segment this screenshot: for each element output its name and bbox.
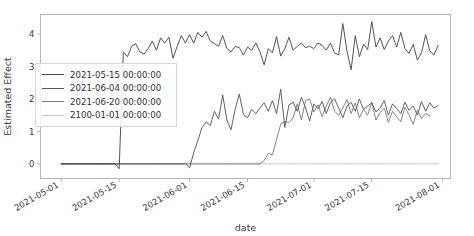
x-tick-label: 2021-05-15 xyxy=(70,180,118,213)
x-tick-label: 2021-06-15 xyxy=(199,180,247,213)
y-tick-label: 0 xyxy=(29,159,34,169)
legend-entry: 2100-01-01 00:00:00 xyxy=(36,109,174,123)
legend-swatch xyxy=(42,88,64,89)
y-axis-title: Estimated Effect xyxy=(2,57,13,136)
legend-entry: 2021-06-20 00:00:00 xyxy=(36,95,174,109)
legend-swatch xyxy=(42,115,64,116)
x-tick-label: 2021-08-01 xyxy=(393,180,441,213)
x-tick-label: 2021-07-01 xyxy=(265,180,313,213)
y-tick-label: 4 xyxy=(29,29,34,39)
x-axis-title: date xyxy=(235,222,257,233)
x-tick-label: 2021-07-15 xyxy=(323,180,371,213)
legend-label: 2100-01-01 00:00:00 xyxy=(70,110,161,120)
legend-entry: 2021-06-04 00:00:00 xyxy=(36,82,174,96)
x-tick-label: 2021-05-01 xyxy=(12,180,60,213)
legend-entry: 2021-05-15 00:00:00 xyxy=(36,68,174,82)
legend-swatch xyxy=(42,74,64,75)
x-tick-label: 2021-06-01 xyxy=(141,180,189,213)
y-tick-label: 2 xyxy=(29,94,34,104)
legend-label: 2021-06-04 00:00:00 xyxy=(70,83,161,93)
legend-label: 2021-06-20 00:00:00 xyxy=(70,97,161,107)
chart-figure: 012342021-05-012021-05-152021-06-012021-… xyxy=(0,0,474,236)
legend-swatch xyxy=(42,101,64,102)
y-tick-label: 3 xyxy=(29,62,34,72)
chart-legend: 2021-05-15 00:00:002021-06-04 00:00:0020… xyxy=(35,63,177,127)
y-tick-label: 1 xyxy=(29,127,34,137)
legend-label: 2021-05-15 00:00:00 xyxy=(70,70,161,80)
